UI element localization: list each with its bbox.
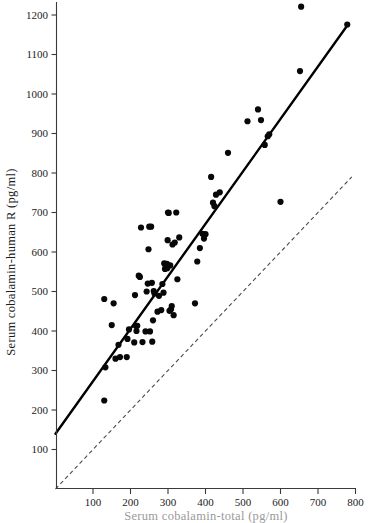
x-tick-label-800: 800 <box>347 496 364 508</box>
data-point <box>160 290 166 296</box>
regression-line <box>56 24 349 433</box>
data-point <box>174 276 180 282</box>
data-points-layer <box>101 4 350 404</box>
data-point <box>169 303 175 309</box>
data-point <box>139 339 145 345</box>
y-tick-label-400: 400 <box>32 325 49 337</box>
scatter-plot-figure: 100200300400500600700800900100011001200 … <box>0 0 369 523</box>
y-tick-label-1200: 1200 <box>26 9 49 21</box>
data-point <box>117 354 123 360</box>
y-tick-label-900: 900 <box>32 127 49 139</box>
data-point <box>131 339 137 345</box>
data-point <box>101 296 107 302</box>
data-point <box>147 328 153 334</box>
data-point <box>217 189 223 195</box>
data-point <box>173 209 179 215</box>
x-tick-label-600: 600 <box>272 496 289 508</box>
data-point <box>266 131 272 137</box>
data-point <box>150 317 156 323</box>
data-point <box>171 312 177 318</box>
y-axis-ticks: 100200300400500600700800900100011001200 <box>26 9 57 456</box>
data-point <box>172 239 178 245</box>
data-point <box>102 364 108 370</box>
x-tick-label-500: 500 <box>235 496 252 508</box>
x-axis-ticks: 100200300400500600700800 <box>85 489 365 509</box>
data-point <box>109 322 115 328</box>
y-tick-label-600: 600 <box>32 246 49 258</box>
y-tick-label-500: 500 <box>32 285 49 297</box>
identity-line <box>56 177 352 489</box>
data-point <box>145 246 151 252</box>
y-tick-label-200: 200 <box>32 404 49 416</box>
data-point <box>134 323 140 329</box>
y-tick-label-800: 800 <box>32 167 49 179</box>
data-point <box>167 262 173 268</box>
data-point <box>262 142 268 148</box>
data-point <box>158 307 164 313</box>
y-tick-label-1100: 1100 <box>26 48 48 60</box>
data-point <box>149 280 155 286</box>
y-tick-label-1000: 1000 <box>26 88 49 100</box>
y-tick-label-700: 700 <box>32 206 49 218</box>
data-point <box>132 292 138 298</box>
data-point <box>165 237 171 243</box>
x-tick-label-400: 400 <box>197 496 214 508</box>
x-tick-label-200: 200 <box>122 496 139 508</box>
data-point <box>277 199 283 205</box>
data-point <box>111 300 117 306</box>
x-axis-title: Serum cobalamin-total (pg/ml) <box>124 509 288 523</box>
data-point <box>166 210 172 216</box>
data-point <box>244 118 250 124</box>
data-point <box>225 150 231 156</box>
data-point <box>149 339 155 345</box>
data-point <box>159 281 165 287</box>
data-point <box>148 224 154 230</box>
data-point <box>138 224 144 230</box>
y-tick-label-300: 300 <box>32 364 49 376</box>
data-point <box>176 234 182 240</box>
y-tick-label-100: 100 <box>32 443 49 455</box>
data-point <box>208 174 214 180</box>
data-point <box>255 106 261 112</box>
x-tick-label-100: 100 <box>85 496 102 508</box>
data-point <box>197 245 203 251</box>
data-point <box>297 68 303 74</box>
data-point <box>144 288 150 294</box>
data-point <box>115 342 121 348</box>
data-point <box>124 336 130 342</box>
data-point <box>258 117 264 123</box>
data-point <box>126 326 132 332</box>
data-point <box>192 300 198 306</box>
reference-lines-layer <box>56 24 352 489</box>
data-point <box>137 274 143 280</box>
plot-canvas: 100200300400500600700800900100011001200 … <box>0 0 369 523</box>
data-point <box>101 397 107 403</box>
y-axis-title: Serum cobalamin-human R (pg/ml) <box>4 168 18 355</box>
x-tick-label-700: 700 <box>310 496 327 508</box>
x-tick-label-300: 300 <box>160 496 177 508</box>
data-point <box>124 354 130 360</box>
data-point <box>211 203 217 209</box>
data-point <box>194 258 200 264</box>
data-point <box>298 4 304 10</box>
data-point <box>202 231 208 237</box>
data-point <box>344 21 350 27</box>
